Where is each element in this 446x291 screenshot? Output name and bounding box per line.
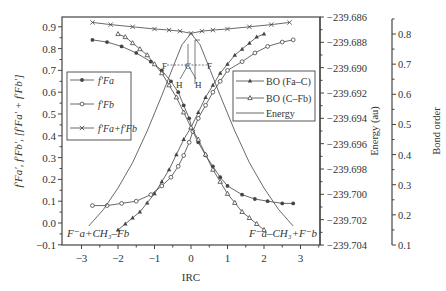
data-marker [167,167,171,171]
data-marker [280,40,284,44]
data-marker [266,45,270,49]
data-marker [262,32,266,36]
data-marker [130,41,134,45]
data-marker [149,193,153,197]
data-marker [134,51,138,55]
data-marker [291,38,295,42]
data-marker [123,35,127,39]
energy-tick-label: −239.698 [327,164,367,175]
data-marker [226,184,230,188]
data-marker [247,41,251,45]
data-marker [182,154,186,158]
legend-right-label: BO (Fa–C) [266,76,311,88]
data-marker [280,201,284,205]
energy-axis-label: Energy (au) [369,106,381,156]
data-marker [176,90,180,94]
y-left-axis-label: f′Fa′, f′Fb′, [f′Fa′ + f′Fb′] [12,75,24,188]
bond-tick-label: 0.2 [398,210,411,221]
x-tick-label: 1 [225,252,231,264]
y-left-tick-label: 0.1 [42,195,56,207]
legend-marker [80,78,84,82]
energy-tick-label: −239.694 [327,113,368,124]
legends-group: f′Faf′Fbf′Fa+f′FbBO (Fa–C)BO (C–Fb)Energ… [67,71,315,140]
data-marker [233,53,237,57]
energy-tick-label: −239.702 [327,215,367,226]
energy-tick-label: −239.688 [327,37,367,48]
y-left-tick-label: 0.8 [42,43,56,55]
y-left-tick-label: 0.6 [42,86,56,98]
y-left-tick-label: 0.5 [42,108,56,120]
bond-tick-label: 0.3 [398,180,411,191]
data-marker [169,79,173,83]
energy-tick-label: −239.696 [327,139,367,150]
bond-axis-label: Bond order [431,107,442,155]
energy-tick-label: −239.704 [327,240,368,251]
bond-tick-label: 0.7 [398,59,411,70]
y-left-tick-label: 0.3 [42,152,56,164]
data-marker [218,79,222,83]
data-marker [182,103,186,107]
data-marker [91,38,95,42]
annotation-reactants: F⁻a+CH₃–Fb [66,227,130,239]
y-left-tick-label: 0.2 [42,173,56,185]
data-marker [123,222,127,226]
data-marker [120,45,124,49]
data-marker [189,125,193,129]
x-tick-label: −2 [112,252,124,264]
data-marker [174,152,178,156]
legend-left-label: f′Fa+f′Fb [98,123,137,134]
data-marker [120,201,124,205]
bond-tick-label: 0.4 [398,150,412,161]
legend-left-label: f′Fb [98,99,114,110]
x-tick-label: 0 [188,252,194,264]
x-tick-label: 2 [261,252,267,264]
bond-tick-label: 0.6 [398,89,411,100]
data-marker [204,103,208,107]
y-left-tick-label: 0.0 [42,217,56,229]
data-marker [105,40,109,44]
atom-label: H [176,80,183,90]
energy-tick-label: −239.690 [327,63,367,74]
energy-tick-label: −239.692 [327,88,367,99]
data-marker [91,204,95,208]
y-left-tick-label: −0.1 [36,239,56,251]
data-marker [196,116,200,120]
legend-left: f′Faf′Fbf′Fa+f′Fb [67,72,137,140]
bond-tick-label: 0.1 [398,240,411,251]
data-marker [240,193,244,197]
legend-right-label: Energy [266,108,295,119]
atom-label: F [207,61,212,71]
data-marker [130,215,134,219]
bond-tick-label: 0.8 [398,29,411,40]
data-marker [116,32,120,36]
x-tick-label: −3 [76,252,88,264]
data-marker [253,197,257,201]
data-marker [134,199,138,203]
data-marker [266,199,270,203]
data-marker [145,53,149,57]
x-axis-label: IRC [182,271,200,283]
y-left-tick-label: 0.7 [42,64,56,76]
legend-left-label: f′Fa [98,75,114,86]
data-marker [211,167,215,171]
energy-tick-label: −239.700 [327,189,367,200]
annotation-products: F⁻a–CH₃+F⁻b [248,227,318,239]
atom-label: F [162,61,167,71]
data-marker [291,201,295,205]
bond-tick-label: 0.5 [398,119,411,130]
axes-group: −3−2−10123IRC−0.10.00.10.20.30.40.50.60.… [12,12,442,283]
data-marker [187,140,191,144]
data-marker [240,60,244,64]
data-marker [138,47,142,51]
series-line [92,22,289,33]
data-marker [187,116,191,120]
y-left-tick-label: 0.4 [42,130,56,142]
legend-right-label: BO (C–Fb) [266,93,311,105]
data-marker [196,110,200,114]
irc-chart: −3−2−10123IRC−0.10.00.10.20.30.40.50.60.… [0,0,446,291]
data-marker [169,175,173,179]
x-tick-label: 3 [298,252,304,264]
x-tick-label: −1 [149,252,161,264]
atom-label: C [185,61,191,71]
data-marker [226,69,230,73]
